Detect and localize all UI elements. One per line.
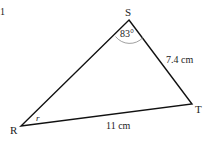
vertex-label-r: R xyxy=(10,124,18,136)
angle-label-r: r xyxy=(36,113,40,123)
vertex-label-s: S xyxy=(125,6,131,18)
triangle-diagram: 1 S T R 83° r 7.4 cm 11 cm xyxy=(0,0,210,143)
angle-label-s: 83° xyxy=(120,28,134,39)
margin-mark: 1 xyxy=(0,6,5,17)
side-label-rt: 11 cm xyxy=(106,120,131,131)
vertex-label-t: T xyxy=(195,103,202,115)
triangle-srt xyxy=(21,20,192,126)
side-label-st: 7.4 cm xyxy=(166,54,193,65)
